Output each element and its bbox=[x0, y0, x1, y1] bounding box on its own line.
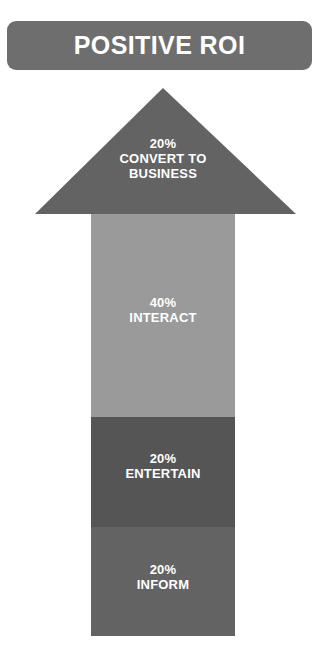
infographic-canvas: POSITIVE ROI 20% CONVERT TO BUSINESS 40%… bbox=[0, 0, 318, 660]
segment-shape-convert bbox=[35, 88, 296, 214]
arrow-diagram: 20% CONVERT TO BUSINESS 40% INTERACT 20%… bbox=[0, 0, 318, 660]
segment-shape-interact bbox=[91, 214, 235, 417]
segment-shape-entertain bbox=[91, 417, 235, 527]
segment-shape-inform bbox=[91, 527, 235, 636]
arrow-shapes-svg bbox=[0, 0, 318, 660]
